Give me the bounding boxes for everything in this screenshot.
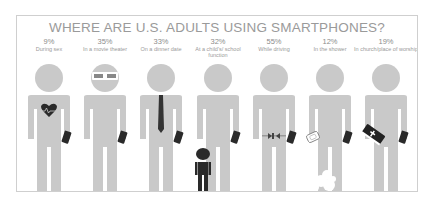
label: In church/place of worship: [354, 46, 418, 52]
person-figure: [191, 63, 245, 192]
stat-driving: 55% While driving: [246, 38, 302, 52]
label: In a movie theater: [77, 46, 133, 52]
percent: 33%: [133, 38, 189, 46]
label: While driving: [246, 46, 302, 52]
person-figure: [303, 63, 357, 192]
smartphone-icon: [61, 130, 71, 144]
smartphone-icon: [117, 130, 127, 144]
percent: 55%: [246, 38, 302, 46]
percent: 32%: [190, 38, 246, 46]
percent: 35%: [77, 38, 133, 46]
percent: 19%: [354, 38, 418, 46]
smartphone-icon: [230, 130, 240, 144]
stat-child-function: 32% At a child's/ school function: [190, 38, 246, 58]
smartphone-icon: [286, 130, 296, 144]
person-figure: [359, 63, 413, 192]
soap-icon: [306, 131, 320, 143]
percent: 9%: [21, 38, 77, 46]
person-figure: [134, 63, 188, 192]
person-figure: [22, 63, 76, 192]
smartphone-icon: [342, 130, 352, 144]
person-figure: [78, 63, 132, 192]
person-figure: [247, 63, 301, 192]
stat-church: 19% In church/place of worship: [354, 38, 418, 52]
label: On a dinner date: [133, 46, 189, 52]
stat-shower: 12% In the shower: [302, 38, 358, 52]
label: In the shower: [302, 46, 358, 52]
label: At a child's/ school function: [190, 46, 246, 58]
stat-during-sex: 9% During sex: [21, 38, 77, 52]
stat-movie-theater: 35% In a movie theater: [77, 38, 133, 52]
3d-glasses-icon: [92, 72, 118, 80]
infographic-frame: WHERE ARE U.S. ADULTS USING SMARTPHONES?…: [16, 15, 418, 192]
percent: 12%: [302, 38, 358, 46]
stat-dinner-date: 33% On a dinner date: [133, 38, 189, 52]
smartphone-icon: [398, 130, 408, 144]
smartphone-icon: [173, 130, 183, 144]
infographic-title: WHERE ARE U.S. ADULTS USING SMARTPHONES?: [17, 20, 417, 35]
necktie-icon: [158, 95, 164, 133]
label: During sex: [21, 46, 77, 52]
